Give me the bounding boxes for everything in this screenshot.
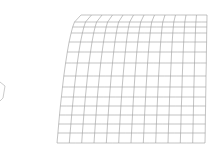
mesh-canvas	[0, 0, 211, 163]
mesh-column-line	[205, 15, 207, 143]
warped-grid-mesh	[57, 15, 207, 143]
partial-hexagon-shape	[0, 82, 5, 101]
